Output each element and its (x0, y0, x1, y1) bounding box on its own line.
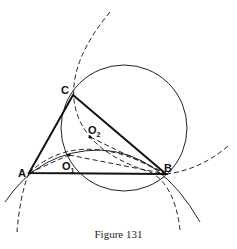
label-a: A (18, 167, 26, 179)
label-c: C (61, 84, 69, 96)
point-o1 (67, 153, 70, 156)
dashed-arc-left (17, 173, 29, 232)
dashed-arc-b-right (166, 146, 228, 174)
geometry-diagram: A B C O1 O2 (0, 0, 237, 249)
label-b: B (164, 162, 172, 174)
solid-arc (5, 150, 200, 222)
label-o1: O1 (62, 160, 75, 174)
figure-caption: Figure 131 (0, 228, 237, 240)
dashed-arc-right (74, 12, 180, 230)
dashed-o1-b (69, 155, 166, 174)
label-o2: O2 (88, 124, 101, 138)
